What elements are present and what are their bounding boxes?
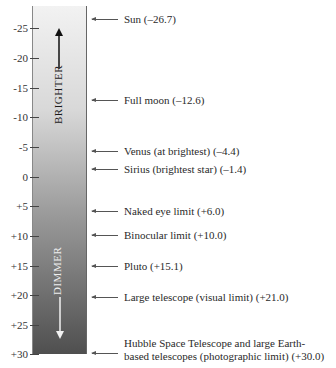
annotation-label: Full moon (–12.6)	[124, 94, 204, 107]
tick-label: -10	[13, 111, 28, 123]
tick	[30, 58, 39, 59]
tick	[30, 325, 39, 326]
arrow-left-icon	[92, 353, 118, 354]
annotation-label-line1: Hubble Space Telescope and large Earth-	[124, 337, 305, 350]
tick-label: +30	[11, 348, 28, 360]
tick	[30, 295, 39, 296]
tick-label: +15	[11, 260, 28, 272]
tick	[30, 28, 39, 29]
tick	[30, 236, 39, 237]
annotation-label: Pluto (+15.1)	[124, 260, 183, 273]
tick-label: -15	[13, 82, 28, 94]
annotation-label-line2: based telescopes (photographic limit) (+…	[124, 350, 324, 363]
arrow-left-icon	[92, 19, 118, 20]
tick	[30, 354, 39, 355]
tick	[30, 147, 39, 148]
tick-label: +25	[11, 319, 28, 331]
dimmer-label: DIMMER	[51, 239, 65, 295]
arrow-left-icon	[92, 169, 118, 170]
annotation-label: Large telescope (visual limit) (+21.0)	[124, 291, 289, 304]
annotation-label: Venus (at brightest) (–4.4)	[124, 145, 239, 158]
tick-label: +5	[16, 200, 28, 212]
tick-label: +20	[11, 289, 28, 301]
tick-label: -20	[13, 52, 28, 64]
tick-label: -25	[13, 22, 28, 34]
arrow-left-icon	[92, 235, 118, 236]
brighter-label: BRIGHTER	[52, 60, 66, 124]
tick	[30, 88, 39, 89]
tick	[30, 117, 39, 118]
arrow-left-icon	[92, 266, 118, 267]
annotation-label: Naked eye limit (+6.0)	[124, 205, 224, 218]
arrow-left-icon	[92, 151, 118, 152]
tick-label: +10	[11, 230, 28, 242]
annotation-label: Binocular limit (+10.0)	[124, 229, 226, 242]
arrow-left-icon	[92, 297, 118, 298]
tick	[30, 266, 39, 267]
tick-label: 0	[23, 171, 29, 183]
tick	[30, 177, 39, 178]
tick-label: -5	[19, 141, 28, 153]
annotation-label: Sirius (brightest star) (–1.4)	[124, 163, 246, 176]
annotation-label: Sun (–26.7)	[124, 13, 176, 26]
arrow-left-icon	[92, 211, 118, 212]
tick	[30, 206, 39, 207]
arrow-down-icon	[53, 297, 67, 339]
arrow-left-icon	[92, 100, 118, 101]
